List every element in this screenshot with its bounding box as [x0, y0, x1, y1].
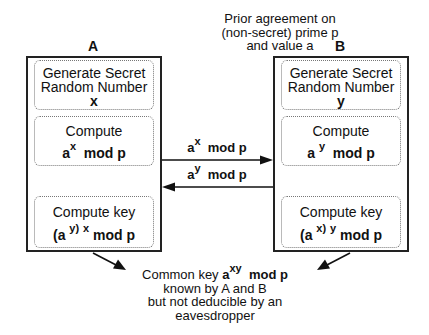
result-heading: Common key axy mod p — [125, 268, 305, 282]
result-line-2: but not deducible by an — [125, 295, 305, 309]
result-line-1: known by A and B — [125, 282, 305, 296]
arrow-a-to-result — [93, 253, 126, 270]
result-prefix: Common key — [142, 267, 219, 282]
result-line-3: eavesdropper — [125, 309, 305, 323]
result-tail: mod p — [249, 267, 288, 282]
arrow-b-to-result — [317, 253, 350, 270]
result-exp: xy — [229, 262, 241, 274]
arrow-b-to-a — [162, 183, 273, 192]
result-note: Common key axy mod p known by A and B bu… — [125, 268, 305, 322]
arrow-a-to-b — [162, 156, 273, 165]
